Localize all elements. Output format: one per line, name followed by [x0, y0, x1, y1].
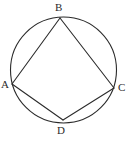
chord-a-b: [12, 18, 60, 84]
chord-b-c: [60, 18, 114, 88]
figure-canvas: [0, 0, 130, 141]
vertex-label-b: B: [55, 2, 62, 13]
vertex-label-d: D: [57, 125, 65, 136]
vertex-label-a: A: [1, 79, 9, 90]
chord-c-d: [63, 88, 114, 120]
geometry-figure: A B C D: [0, 0, 130, 141]
chord-d-a: [12, 84, 63, 120]
vertex-label-c: C: [118, 82, 125, 93]
